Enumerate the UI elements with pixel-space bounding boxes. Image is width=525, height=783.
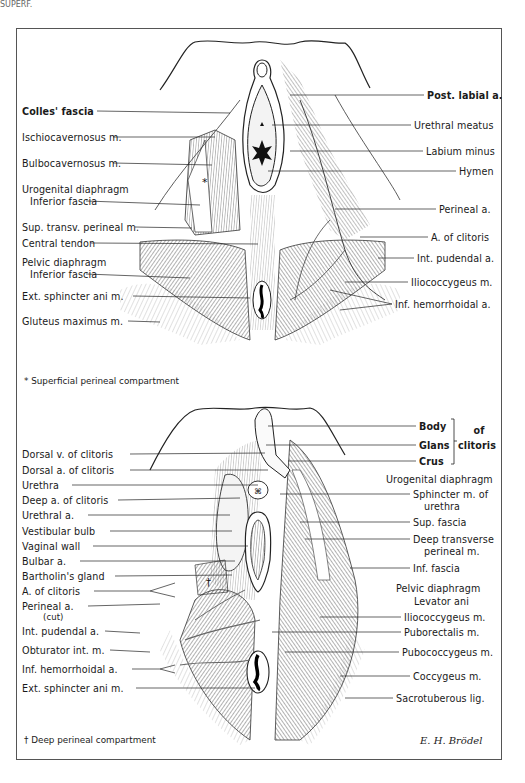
- label-post-labial-a: Post. labial a.: [427, 90, 503, 101]
- label-dorsal-a-clitoris: Dorsal a. of clitoris: [22, 465, 114, 476]
- footnote-deep-compartment: † Deep perineal compartment: [24, 735, 156, 745]
- label-urethra: Urethra: [22, 480, 59, 491]
- label-gluteus-maximus: Gluteus maximus m.: [22, 316, 123, 327]
- label-labium-minus: Labium minus: [426, 146, 495, 157]
- label-central-tendon: Central tendon: [22, 238, 95, 249]
- label-int-pudendal-a-bottom: Int. pudendal a.: [22, 626, 99, 637]
- label-hymen: Hymen: [459, 166, 494, 177]
- label-ext-sphincter-ani-bottom: Ext. sphincter ani m.: [22, 683, 124, 694]
- label-iliococcygeus-bottom: Iliococcygeus m.: [404, 612, 486, 623]
- label-inf-hemorrhoidal-a-bottom: Inf. hemorrhoidal a.: [22, 664, 118, 675]
- label-levator-ani: Levator ani: [414, 596, 469, 607]
- label-inf-hemorrhoidal-a: Inf. hemorrhoidal a.: [395, 299, 491, 310]
- label-pubococcygeus: Pubococcygeus m.: [402, 647, 493, 658]
- label-sup-transv-perineal: Sup. transv. perineal m.: [22, 222, 139, 233]
- label-of: of: [461, 425, 497, 436]
- label-pelvic-diaphragm: Pelvic diaphragm: [22, 257, 106, 268]
- label-ischiocavernosus: Ischiocavernosus m.: [22, 132, 122, 143]
- label-pelvic-diaphragm-bottom: Pelvic diaphragm: [396, 583, 480, 594]
- label-perineal-a-cut: Perineal a.: [22, 601, 74, 612]
- label-cut-note: (cut): [43, 612, 64, 623]
- label-clitoris: clitoris: [458, 440, 496, 451]
- label-bulbar-a: Bulbar a.: [22, 556, 66, 567]
- label-perineal-m: perineal m.: [424, 546, 480, 557]
- label-inf-fascia: Inf. fascia: [413, 563, 460, 574]
- superficial-compartment-marker: *: [202, 176, 208, 189]
- label-perineal-a: Perineal a.: [439, 204, 491, 215]
- label-ext-sphincter-ani: Ext. sphincter ani m.: [22, 291, 124, 302]
- label-urethra-2: urethra: [424, 501, 460, 512]
- label-dorsal-v-clitoris: Dorsal v. of clitoris: [22, 449, 113, 460]
- footnote-superficial-compartment: * Superficial perineal compartment: [24, 376, 179, 386]
- label-inferior-fascia-pd: Inferior fascia: [30, 269, 97, 280]
- deep-compartment-marker: †: [206, 577, 211, 588]
- label-urogenital-diaphragm: Urogenital diaphragm: [22, 184, 129, 195]
- label-iliococcygeus: Iliococcygeus m.: [411, 277, 493, 288]
- artist-signature: E. H. Brödel: [420, 735, 482, 746]
- label-vaginal-wall: Vaginal wall: [22, 541, 80, 552]
- label-bartholins-gland: Bartholin's gland: [22, 571, 105, 582]
- label-glans: Glans: [419, 440, 450, 451]
- label-sup-fascia: Sup. fascia: [413, 517, 467, 528]
- label-crus: Crus: [419, 456, 444, 467]
- label-a-of-clitoris-bottom: A. of clitoris: [22, 586, 80, 597]
- label-body: Body: [419, 421, 446, 432]
- label-urogenital-diaphragm-bottom: Urogenital diaphragm: [386, 474, 493, 485]
- label-obturator-int: Obturator int. m.: [22, 645, 105, 656]
- label-coccygeus: Coccygeus m.: [413, 671, 482, 682]
- label-urethral-meatus: Urethral meatus: [414, 120, 494, 131]
- label-sphincter-urethra: Sphincter m. of: [413, 489, 488, 500]
- label-puborectalis: Puborectalis m.: [404, 627, 479, 638]
- svg-text:⌘: ⌘: [254, 487, 262, 496]
- label-vestibular-bulb: Vestibular bulb: [22, 526, 95, 537]
- label-inferior-fascia-ug: Inferior fascia: [30, 196, 97, 207]
- label-int-pudendal-a: Int. pudendal a.: [417, 253, 494, 264]
- label-bulbocavernosus: Bulbocavernosus m.: [22, 158, 121, 169]
- label-urethral-a: Urethral a.: [22, 510, 74, 521]
- label-deep-transverse: Deep transverse: [413, 534, 494, 545]
- label-sacrotuberous-lig: Sacrotuberous lig.: [396, 693, 485, 704]
- label-a-of-clitoris: A. of clitoris: [431, 232, 489, 243]
- label-deep-a-clitoris: Deep a. of clitoris: [22, 495, 108, 506]
- label-colles-fascia: Colles' fascia: [22, 106, 94, 117]
